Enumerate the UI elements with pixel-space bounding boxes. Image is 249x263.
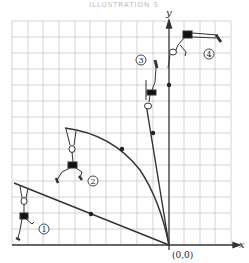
pole-vault-diagram: ILLUSTRATION 5 x	[0, 0, 249, 263]
svg-text:3: 3	[138, 56, 143, 65]
origin-label: (0,0)	[172, 250, 193, 260]
svg-text:4: 4	[206, 50, 211, 59]
svg-text:1: 1	[41, 225, 46, 234]
svg-text:2: 2	[90, 177, 95, 186]
grid	[12, 21, 231, 245]
poles	[14, 104, 169, 245]
pole-position-3	[146, 104, 169, 245]
header-text: ILLUSTRATION 5	[89, 1, 159, 9]
position-4-label: 4	[204, 49, 214, 59]
position-2-label: 2	[88, 176, 98, 186]
position-1-label: 1	[39, 224, 49, 234]
athlete-3	[145, 60, 158, 109]
y-axis-label: y	[165, 7, 172, 18]
athlete-4	[168, 31, 221, 68]
athlete-2	[56, 129, 82, 183]
x-axis-label: x	[239, 239, 245, 250]
pole-dots	[89, 83, 171, 216]
position-3-label: 3	[136, 55, 146, 65]
